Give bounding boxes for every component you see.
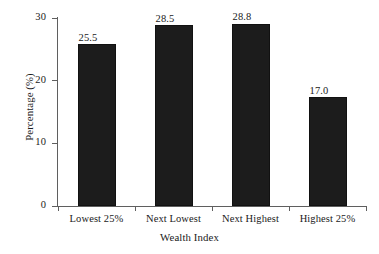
x-axis-label-lowest-25: Lowest 25% [58, 213, 135, 225]
bar-next-lowest[interactable] [155, 25, 193, 206]
bar-value-next-highest: 28.8 [212, 11, 272, 22]
y-axis-title: Percentage (%) [23, 47, 35, 167]
bar-value-next-lowest: 28.5 [135, 13, 195, 24]
x-axis-tick-2 [212, 206, 213, 211]
x-axis-title: Wealth Index [0, 231, 379, 243]
y-axis-tick-label-0: 0 [6, 200, 46, 211]
bar-value-highest-25: 17.0 [289, 85, 349, 96]
y-axis-tick-20 [52, 80, 57, 81]
x-axis-label-next-lowest: Next Lowest [135, 213, 212, 225]
x-axis-tick-1 [135, 206, 136, 211]
x-axis-tick-0 [58, 206, 59, 211]
bar-chart: 30 20 10 0 Percentage (%) 25.5 28.5 28.8… [0, 0, 379, 254]
bar-lowest-25[interactable] [78, 44, 116, 206]
y-axis-tick-10 [52, 143, 57, 144]
x-axis-label-highest-25: Highest 25% [289, 213, 366, 225]
bar-value-lowest-25: 25.5 [58, 32, 118, 43]
y-axis-tick-label-30: 30 [6, 12, 46, 23]
plot-area [58, 18, 366, 206]
x-axis-tick-4 [366, 206, 367, 211]
y-axis-tick-0 [52, 206, 57, 207]
bar-next-highest[interactable] [232, 24, 270, 206]
x-axis-label-next-highest: Next Highest [212, 213, 289, 225]
bar-highest-25[interactable] [309, 97, 347, 206]
y-axis-tick-30 [52, 18, 57, 19]
x-axis-tick-3 [289, 206, 290, 211]
